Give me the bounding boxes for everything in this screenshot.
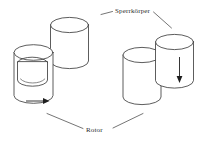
left-rotor-top-rim [14, 45, 53, 61]
label-rotor: Rotor [86, 126, 103, 134]
label-sperrkoerper: Sperrkörper [115, 7, 151, 15]
rotor-leader-left [47, 114, 83, 129]
right-sperrkoerper-cylinder [156, 34, 194, 88]
left-rotor-cylinder [14, 45, 53, 104]
sperrkoerper-rotor-illustration: Sperrkörper Rotor [0, 0, 217, 146]
right-sperrkoerper-top-face [156, 34, 194, 49]
left-sperrkoerper-cylinder [51, 17, 89, 68]
rotor-leader-right [113, 114, 143, 129]
sperrkoerper-leader-right [154, 12, 172, 28]
diagram-canvas: Sperrkörper Rotor [0, 0, 217, 146]
sperrkoerper-leader-left [101, 12, 113, 15]
left-sperrkoerper-top-face [51, 17, 89, 32]
left-rotor-cavity-wall [18, 62, 48, 86]
